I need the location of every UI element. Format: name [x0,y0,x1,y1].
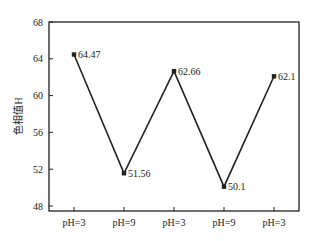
y-tick-label: 52 [33,164,43,175]
y-tick-label: 68 [33,17,43,28]
y-tick-label: 48 [33,201,43,212]
data-label: 64.47 [78,49,101,60]
data-point-marker [172,69,176,73]
line-chart: 485256606468 pH=3pH=9pH=3pH=9pH=3 64.475… [0,0,317,241]
x-tick-label: pH=3 [63,217,86,228]
y-tick-label: 56 [33,127,43,138]
data-point-marker [272,74,276,78]
y-axis-label: 色相值H [12,97,24,134]
data-label: 62.66 [178,66,201,77]
data-label: 62.1 [278,71,296,82]
data-point-marker [222,184,226,188]
y-tick-label: 64 [33,53,43,64]
data-point-marker [72,52,76,56]
data-label: 51.56 [128,168,151,179]
data-point-marker [122,171,126,175]
data-label: 50.1 [228,181,246,192]
x-tick-label: pH=3 [163,217,186,228]
series-line: 64.4751.5662.6650.162.1 [72,49,296,192]
x-axis: pH=3pH=9pH=3pH=9pH=3 [63,207,286,228]
x-tick-label: pH=9 [113,217,136,228]
x-tick-label: pH=9 [213,217,236,228]
x-tick-label: pH=3 [263,217,286,228]
y-axis: 485256606468 [33,17,53,212]
y-tick-label: 60 [33,90,43,101]
data-line [74,54,274,186]
